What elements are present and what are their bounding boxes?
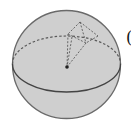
center-point bbox=[65, 65, 69, 69]
cropped-label-text: ( bbox=[126, 30, 131, 46]
sphere-diagram bbox=[0, 0, 131, 130]
sphere bbox=[13, 11, 121, 119]
